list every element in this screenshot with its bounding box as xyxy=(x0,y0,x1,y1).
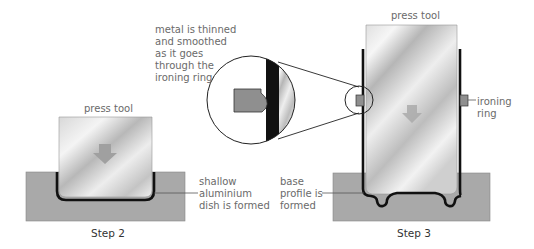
step3-ironing-ring-left xyxy=(356,95,364,106)
step3-press-tool-label: press tool xyxy=(391,10,440,22)
ironing-callout-text: metal is thinned and smoothed as it goes… xyxy=(155,24,236,84)
step3-caption: Step 3 xyxy=(397,227,431,239)
base-profile-label: base profile is formed xyxy=(280,176,323,212)
step2-caption: Step 2 xyxy=(91,227,125,239)
step3-ironing-ring-right xyxy=(460,95,468,106)
step2-press-tool-label: press tool xyxy=(84,103,133,115)
ironing-ring-label: ironing ring xyxy=(477,96,512,120)
step2-dish-label: shallow aluminium dish is formed xyxy=(199,176,270,212)
